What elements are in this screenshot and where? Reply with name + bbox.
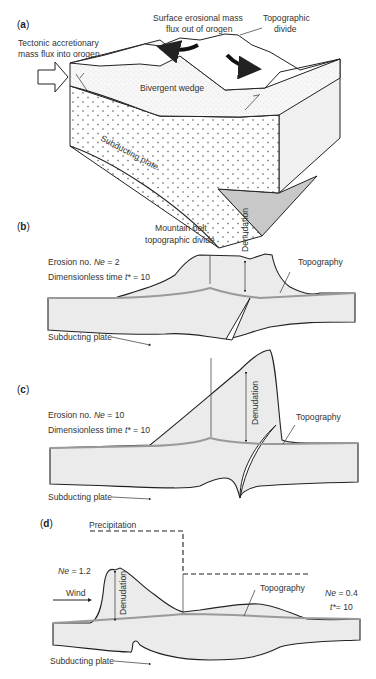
svg-text:mass flux into orogen: mass flux into orogen [18,49,100,59]
denudation-label-d: Denudation [118,571,128,615]
plate-label-b: Subducting plate [48,332,112,342]
erosion-flux-label: Surface erosional mass [153,13,243,23]
plate-arrow-b-icon [112,337,150,345]
time-c: Dimensionless time t* = 10 [48,425,150,435]
bivergent-wedge-label: Bivergent wedge [140,83,204,93]
ne-right-label: Ne = 0.4 [325,588,358,598]
divide-label-b: Mountain belt [155,223,207,233]
topographic-divide-label: Topographic [263,13,311,23]
topography-label-b: Topography [298,257,344,267]
topography-label-c: Topography [296,412,342,422]
time-b: Dimensionless time t* = 10 [48,272,150,282]
time-d: t*= 10 [330,602,353,612]
erosion-number-c: Erosion no. Ne = 10 [48,410,124,420]
panel-a-label: (a) [17,19,29,30]
denudation-label-c: Denudation [250,381,260,425]
panel-c: (c) Denudation Erosion no. Ne = 10 Dimen… [17,350,358,502]
svg-text:topographic divide: topographic divide [145,235,215,245]
precipitation-profile [90,531,310,574]
tectonic-flux-label: Tectonic accretionary [18,38,99,48]
plate-arrow-c-icon [112,497,150,499]
precipitation-label: Precipitation [89,520,137,530]
orogen-figure: (a) Tectonic accretionary mass flux into… [0,0,376,679]
erosion-number-b: Erosion no. Ne = 2 [48,257,120,267]
panel-a: (a) Tectonic accretionary mass flux into… [17,13,340,248]
tectonic-input-arrow-icon [38,62,68,92]
plate-label-d: Subducting plate [50,656,114,666]
panel-d: (d) Precipitation Denudation Ne = 1.2 Wi… [40,518,360,666]
panel-d-label: (d) [40,518,53,529]
crust-section-c [50,350,358,498]
wind-label: Wind [66,588,86,598]
plate-label-c: Subducting plate [48,492,112,502]
panel-c-label: (c) [17,384,29,395]
plate-arrow-d-icon [114,661,150,664]
svg-text:flux out of orogen: flux out of orogen [166,24,233,34]
topography-label-d: Topography [260,583,306,593]
panel-b: (b) Mountain belt topographic divide Den… [17,208,355,345]
divide-leader [240,28,262,35]
panel-b-label: (b) [17,221,30,232]
svg-text:divide: divide [274,24,297,34]
ne-left-label: Ne = 1.2 [58,566,91,576]
denudation-label-b: Denudation [240,208,250,252]
